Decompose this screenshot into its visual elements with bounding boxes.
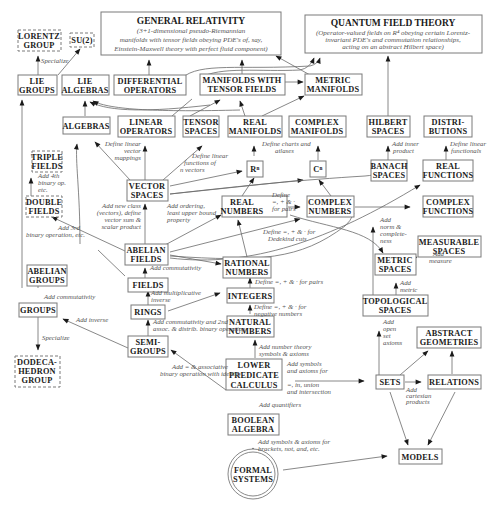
groups-label: GROUPS	[20, 306, 56, 315]
node-real-functions[interactable]: REAL FUNCTIONS	[423, 160, 474, 181]
node-complex-manifolds[interactable]: COMPLEX MANIFOLDS	[289, 116, 346, 137]
complex-numbers-line-2: NUMBERS	[309, 207, 352, 216]
gr-desc-1: (3+1-dimensional pseudo-Riemannian	[137, 27, 246, 35]
node-rational-numbers[interactable]: RATIONAL NUMBERS	[223, 257, 271, 278]
semi-groups-line-1: SEMI-	[136, 338, 161, 347]
label-add-4th-3: etc.	[38, 186, 48, 193]
label-add-norm-4: ness	[380, 237, 392, 244]
node-rings[interactable]: RINGS	[131, 305, 165, 319]
node-formal-systems[interactable]: FORMAL SYSTEMS	[228, 449, 278, 499]
edge-formal-to-models	[283, 456, 387, 470]
node-real-manifolds[interactable]: REAL MANIFOLDS	[228, 116, 282, 137]
label-add-cartesian-3: products	[405, 398, 430, 405]
label-add-symbols-sets-2: and axioms for	[287, 367, 328, 374]
abelian-groups-line-1: ABELIAN	[27, 267, 66, 276]
label-add-norm-2: norm &	[380, 223, 402, 230]
node-quantum-field-theory[interactable]: QUANTUM FIELD THEORY (Operator-valued fi…	[305, 15, 482, 53]
label-add-open-set-3: set	[383, 332, 392, 339]
node-distributions[interactable]: DISTRI- BUTIONS	[424, 116, 472, 137]
node-abelian-fields[interactable]: ABELIAN FIELDS	[125, 244, 168, 265]
manifolds-tensor-line-1: MANIFOLDS WITH	[203, 76, 282, 85]
node-su2[interactable]: SU(2)	[70, 33, 94, 47]
formal-line-1: FORMAL	[234, 466, 272, 475]
lorentz-line-1: LORENTZ	[18, 32, 60, 41]
label-add-ordering-2: least upper bound	[167, 209, 217, 216]
label-add-norm-1: Add	[379, 216, 392, 223]
integers-label: INTEGERS	[228, 292, 273, 301]
gr-desc-2: manifolds with tensor fields obeying PDE…	[120, 36, 263, 44]
node-models[interactable]: MODELS	[399, 449, 442, 464]
label-define-linear-mappings-2: vector	[124, 147, 141, 154]
edge-sets-to-abstract-geometries	[400, 351, 428, 375]
label-add-4th-1: Add 4th	[37, 172, 60, 179]
label-define-functionals-1: Define linear	[449, 140, 486, 147]
label-add-measure-1: Add	[432, 250, 445, 257]
node-vector-spaces[interactable]: VECTOR SPACES	[127, 180, 168, 201]
node-algebras[interactable]: ALGEBRAS	[62, 117, 110, 134]
node-groups[interactable]: GROUPS	[19, 303, 57, 317]
complex-manifolds-line-2: MANIFOLDS	[291, 127, 344, 136]
rings-label: RINGS	[134, 308, 161, 317]
node-complex-functions[interactable]: COMPLEX FUNCTIONS	[423, 196, 474, 217]
label-add-number-theory-1: Add number theory	[258, 343, 312, 350]
real-manifolds-line-2: MANIFOLDS	[229, 127, 282, 136]
diffops-line-2: OPERATORS	[124, 86, 177, 95]
label-add-measure-2: measure	[429, 257, 452, 264]
node-relations[interactable]: RELATIONS	[428, 375, 481, 389]
abelian-groups-line-2: GROUPS	[29, 276, 65, 285]
node-linear-operators[interactable]: LINEAR OPERATORS	[118, 116, 175, 137]
label-add-commutativity-fields: Add commutativity	[149, 264, 202, 271]
gr-title: GENERAL RELATIVITY	[137, 16, 245, 26]
rational-line-2: NUMBERS	[226, 268, 269, 277]
abelian-fields-line-1: ABELIAN	[126, 246, 165, 255]
node-lie-algebras[interactable]: LIE ALGEBRAS	[61, 75, 109, 95]
node-boolean-algebra[interactable]: BOOLEAN ALGEBRA	[228, 414, 279, 435]
tensor-spaces-line-2: SPACES	[185, 127, 218, 136]
node-sets[interactable]: SETS	[376, 375, 404, 389]
node-abelian-groups[interactable]: ABELIAN GROUPS	[27, 265, 67, 286]
label-define-pairs-rational: Define =, + & · for pairs	[254, 278, 323, 285]
sets-label: SETS	[379, 378, 400, 387]
label-define-charts-1: Define charts and	[261, 140, 311, 147]
node-general-relativity[interactable]: GENERAL RELATIVITY (3+1-dimensional pseu…	[101, 12, 281, 55]
lpc-line-1: LOWER	[238, 361, 272, 370]
node-metric-spaces[interactable]: METRIC SPACES	[375, 254, 416, 275]
node-banach-spaces[interactable]: BANACH SPACES	[370, 160, 408, 181]
label-define-negative-1: Define =, + & · for	[253, 303, 307, 310]
label-add-open-set-1: Add	[382, 318, 395, 325]
algebras-label: ALGEBRAS	[62, 122, 109, 131]
lie-groups-line-2: GROUPS	[19, 86, 55, 95]
node-metric-manifolds[interactable]: METRIC MANIFOLDS	[305, 74, 362, 95]
node-double-fields[interactable]: DOUBLE FIELDS	[26, 196, 63, 217]
node-differential-operators[interactable]: DIFFERENTIAL OPERATORS	[114, 75, 186, 95]
node-topological-spaces[interactable]: TOPOLOGICAL SPACES	[363, 295, 428, 316]
edge-metric-manifolds-to-gr	[276, 56, 310, 75]
node-abstract-geometries[interactable]: ABSTRACT GEOMETRIES	[417, 327, 481, 348]
label-add-metric-2: metric	[400, 286, 417, 293]
node-lie-groups[interactable]: LIE GROUPS	[18, 75, 57, 95]
real-numbers-line-1: REAL	[230, 198, 254, 207]
node-dodecahedron-group[interactable]: DODECA- HEDRON GROUP	[15, 356, 60, 387]
node-integers[interactable]: INTEGERS	[227, 288, 274, 303]
linops-line-2: OPERATORS	[120, 127, 173, 136]
metric-spaces-line-1: METRIC	[377, 256, 412, 265]
lie-algebras-line-2: ALGEBRAS	[61, 86, 108, 95]
node-manifolds-tensor-fields[interactable]: MANIFOLDS WITH TENSOR FIELDS	[200, 74, 285, 95]
label-add-open-set-4: axioms	[383, 339, 403, 346]
node-semi-groups[interactable]: SEMI- GROUPS	[128, 336, 168, 357]
edge-semigroups-to-groups	[63, 319, 128, 348]
label-add-3rd-1: Add 3rd	[57, 224, 80, 231]
node-hilbert-spaces[interactable]: HILBERT SPACES	[367, 116, 410, 137]
node-rn[interactable]: Rⁿ	[247, 161, 263, 177]
label-add-symbols-brackets-1: Add symbols & axioms for	[257, 438, 330, 445]
node-tensor-spaces[interactable]: TENSOR SPACES	[183, 116, 219, 137]
node-triple-fields[interactable]: TRIPLE FIELDS	[31, 151, 63, 172]
topological-line-2: SPACES	[379, 306, 412, 315]
node-complex-numbers[interactable]: COMPLEX NUMBERS	[307, 196, 354, 217]
relations-label: RELATIONS	[429, 378, 479, 387]
node-cn[interactable]: Cⁿ	[310, 161, 326, 177]
node-measurable-spaces[interactable]: MEASURABLE SPACES	[418, 236, 481, 257]
label-add-quantifiers: Add quantifiers	[258, 401, 301, 408]
node-lorentz-group[interactable]: LORENTZ GROUP	[18, 30, 61, 51]
complex-manifolds-line-1: COMPLEX	[295, 118, 339, 127]
